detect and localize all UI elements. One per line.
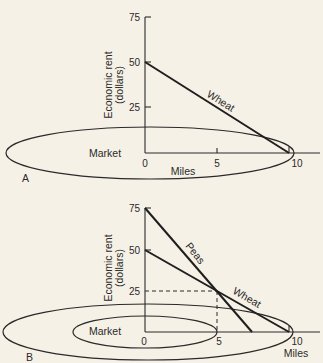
- peas-label-b: Peas: [183, 240, 207, 266]
- x-axis-label-a: Miles: [171, 165, 196, 177]
- x-tick-label: 0: [141, 336, 147, 347]
- y-tick-label: 75: [129, 12, 141, 23]
- market-label-a: Market: [89, 147, 121, 159]
- y-tick-label: 25: [129, 286, 141, 297]
- peas-rent-line-b: [145, 208, 252, 332]
- y-tick-label: 50: [129, 57, 141, 68]
- wheat-label-b: Wheat: [231, 284, 263, 310]
- x-tick-label: 10: [291, 336, 303, 347]
- market-label-b: Market: [89, 325, 121, 337]
- x-tick-label: 10: [291, 158, 303, 169]
- y-tick-label: 25: [129, 102, 141, 113]
- panel-b: 75 50 25 0 5 10 Economic rent (dollars) …: [3, 203, 320, 363]
- x-tick-label: 5: [216, 336, 222, 347]
- y-axis-unit-a: (dollars): [113, 66, 125, 104]
- x-axis-label-b: Miles: [284, 347, 309, 359]
- panel-letter-b: B: [26, 351, 33, 363]
- von-thunen-diagram: 75 50 25 0 5 10 Economic rent (dollars) …: [0, 0, 323, 363]
- x-tick-label: 0: [142, 158, 148, 169]
- panel-a: 75 50 25 0 5 10 Economic rent (dollars) …: [6, 12, 320, 184]
- panel-letter-a: A: [22, 172, 29, 184]
- y-axis-unit-b: (dollars): [113, 249, 125, 287]
- x-tick-label: 5: [214, 158, 220, 169]
- y-tick-label: 75: [129, 203, 141, 214]
- wheat-rent-line-a: [145, 62, 289, 153]
- y-tick-label: 50: [129, 245, 141, 256]
